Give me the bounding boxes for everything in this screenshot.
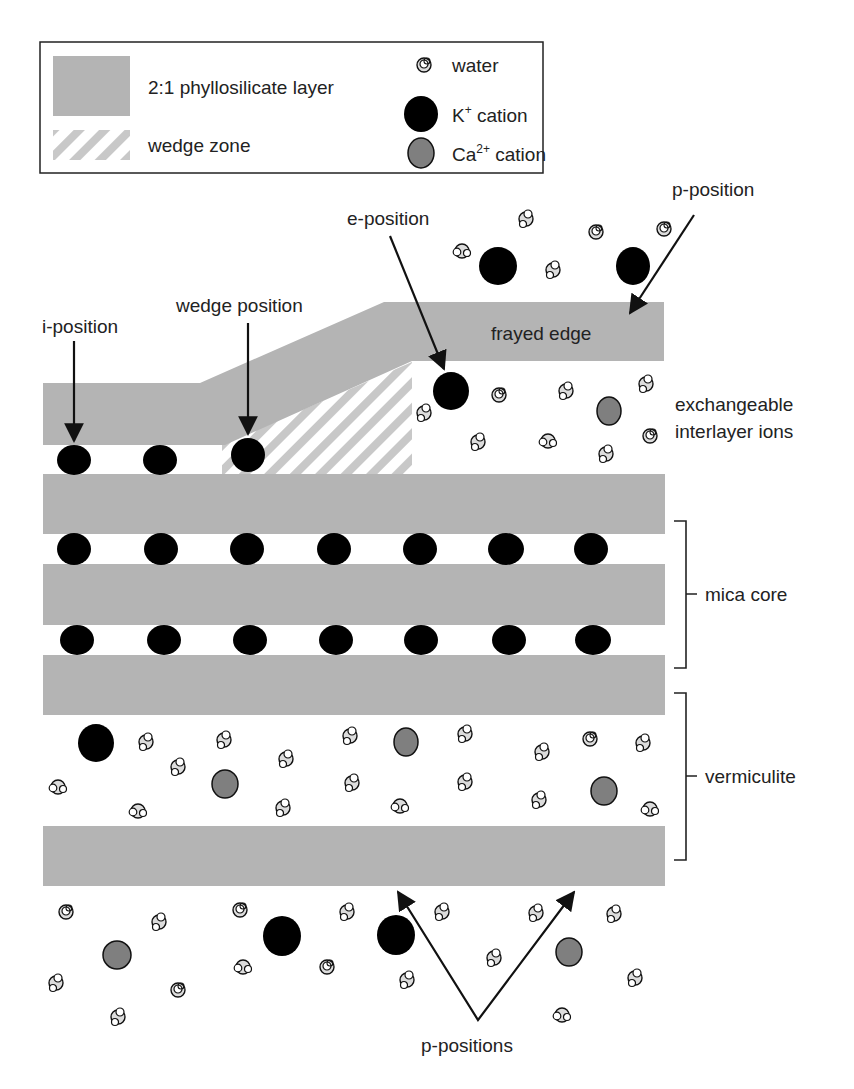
k-cation-icon	[404, 96, 438, 132]
label-vermiculite: vermiculite	[705, 766, 796, 787]
mica-core-brace	[674, 521, 697, 668]
legend-layer-swatch	[53, 56, 130, 116]
legend-wedge-label: wedge zone	[147, 135, 250, 156]
label-p-positions: p-positions	[421, 1035, 513, 1056]
water-molecule-icon	[417, 58, 431, 72]
label-i-position: i-position	[42, 316, 118, 337]
label-frayed-edge: frayed edge	[491, 323, 591, 344]
vermiculite-brace	[674, 693, 697, 860]
label-mica-core: mica core	[705, 584, 787, 605]
label-p-position: p-position	[672, 179, 754, 200]
layer-4	[43, 655, 665, 715]
label-exchangeable: exchangeable	[675, 394, 793, 415]
label-wedge-position: wedge position	[175, 295, 303, 316]
label-interlayer-ions: interlayer ions	[675, 421, 793, 442]
braces	[674, 521, 697, 860]
legend-water-label: water	[451, 55, 499, 76]
legend-wedge-swatch	[53, 130, 130, 160]
arrows-p-positions	[398, 892, 574, 1020]
legend: 2:1 phyllosilicate layer wedge zone wate…	[40, 42, 546, 173]
legend-ca-label: Ca2+ cation	[452, 142, 546, 165]
phyllosilicate-diagram: 2:1 phyllosilicate layer wedge zone wate…	[0, 0, 854, 1089]
legend-k-label: K+ cation	[452, 103, 528, 126]
layer-5	[43, 826, 665, 886]
ca-cation-icon	[408, 138, 434, 168]
label-e-position: e-position	[347, 208, 429, 229]
layer-2	[43, 474, 665, 534]
layer-3	[43, 564, 665, 625]
legend-layer-label: 2:1 phyllosilicate layer	[148, 77, 335, 98]
